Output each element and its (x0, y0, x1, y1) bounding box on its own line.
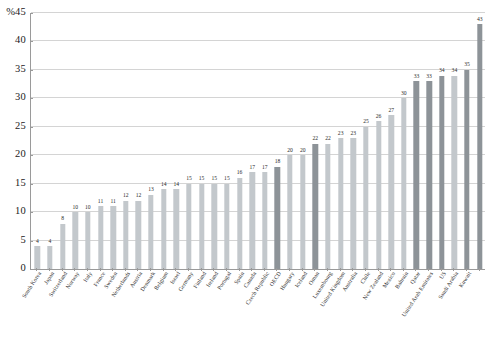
plot-area: 4481010111112121314141515151516171718202… (30, 14, 485, 270)
y-tick-25: 25 (0, 127, 30, 128)
bar[interactable] (287, 155, 292, 269)
bar[interactable] (161, 189, 166, 269)
bar[interactable] (300, 155, 305, 269)
x-axis-label: US (439, 271, 448, 281)
bar-value-label: 4 (49, 239, 52, 245)
y-tick-5: 5 (0, 241, 30, 242)
bar-value-label: 25 (363, 119, 369, 125)
bar-slot: 10 (69, 14, 82, 269)
bar[interactable] (426, 81, 431, 269)
bar-slot: 22 (322, 14, 335, 269)
bar[interactable] (249, 172, 254, 269)
bar[interactable] (376, 121, 381, 269)
bar-slot: 20 (284, 14, 297, 269)
bar[interactable] (148, 195, 153, 269)
bar-value-label: 17 (249, 165, 255, 171)
bar-slot: 10 (82, 14, 95, 269)
bar[interactable] (313, 144, 318, 269)
bar-slot: 20 (296, 14, 309, 269)
y-tick-45: %45 (0, 13, 30, 14)
bar-value-label: 12 (136, 193, 142, 199)
bar-slot: 13 (145, 14, 158, 269)
bar-value-label: 22 (325, 136, 331, 142)
bar[interactable] (60, 224, 65, 270)
bar[interactable] (363, 127, 368, 269)
bar-value-label: 43 (477, 17, 483, 23)
x-axis-label: Kuwait (458, 271, 472, 289)
x-axis-label: Iceland (294, 271, 309, 289)
y-tick-label: 15 (0, 178, 30, 189)
bar-slot: 12 (132, 14, 145, 269)
bar[interactable] (477, 24, 482, 269)
bar[interactable] (224, 184, 229, 269)
bar[interactable] (212, 184, 217, 269)
bar[interactable] (262, 172, 267, 269)
bar-value-label: 35 (464, 62, 470, 68)
bar[interactable] (98, 206, 103, 269)
y-tick-40: 40 (0, 41, 30, 42)
bar[interactable] (351, 138, 356, 269)
bar-value-label: 15 (224, 176, 230, 182)
bar[interactable] (388, 115, 393, 269)
bar[interactable] (110, 206, 115, 269)
bars-layer: 4481010111112121314141515151516171718202… (31, 14, 485, 269)
y-axis: 0510152025303540%45 (0, 14, 30, 270)
bar-value-label: 30 (401, 91, 407, 97)
bar-slot: 15 (221, 14, 234, 269)
x-axis-label: South Korea (22, 271, 43, 300)
bar[interactable] (325, 144, 330, 269)
bar[interactable] (47, 246, 52, 269)
bar-value-label: 20 (300, 148, 306, 154)
bar-value-label: 14 (161, 182, 167, 188)
bar-value-label: 33 (426, 74, 432, 80)
y-tick-label: 25 (0, 121, 30, 132)
bar-value-label: 22 (313, 136, 319, 142)
bar-slot: 16 (233, 14, 246, 269)
bar[interactable] (35, 246, 40, 269)
bar-value-label: 17 (262, 165, 268, 171)
bar[interactable] (186, 184, 191, 269)
bar-value-label: 12 (123, 193, 129, 199)
y-tick-label: 5 (0, 235, 30, 246)
y-tick-30: 30 (0, 98, 30, 99)
bar[interactable] (452, 76, 457, 269)
bar-value-label: 8 (61, 216, 64, 222)
bar-slot: 15 (195, 14, 208, 269)
bar[interactable] (85, 212, 90, 269)
bar-value-label: 14 (174, 182, 180, 188)
bar-slot: 34 (435, 14, 448, 269)
bar[interactable] (174, 189, 179, 269)
bar-value-label: 10 (72, 205, 78, 211)
bar[interactable] (464, 70, 469, 269)
bar[interactable] (73, 212, 78, 269)
y-tick-15: 15 (0, 184, 30, 185)
bar-slot: 4 (31, 14, 44, 269)
bar[interactable] (439, 76, 444, 269)
gridline-45 (31, 12, 485, 13)
bar[interactable] (414, 81, 419, 269)
y-tick-label: 10 (0, 206, 30, 217)
bar[interactable] (123, 201, 128, 269)
bar[interactable] (275, 167, 280, 269)
bar[interactable] (338, 138, 343, 269)
bar[interactable] (199, 184, 204, 269)
bar-slot: 25 (360, 14, 373, 269)
bar-value-label: 15 (199, 176, 205, 182)
y-tick-20: 20 (0, 155, 30, 156)
bar-slot: 18 (271, 14, 284, 269)
bar-slot: 12 (119, 14, 132, 269)
bar-slot: 17 (246, 14, 259, 269)
bar-slot: 14 (170, 14, 183, 269)
bar[interactable] (401, 98, 406, 269)
bar-slot: 26 (372, 14, 385, 269)
y-tick-label: 40 (0, 35, 30, 46)
x-axis-labels: South KoreaJapanSwitzerlandNorwayItalyFr… (30, 271, 485, 337)
bar-slot: 43 (473, 14, 486, 269)
bar-slot: 15 (183, 14, 196, 269)
bar[interactable] (237, 178, 242, 269)
y-tick-label: 0 (0, 263, 30, 274)
y-tick-label: 35 (0, 64, 30, 75)
bar-slot: 14 (157, 14, 170, 269)
bar-value-label: 15 (211, 176, 217, 182)
bar[interactable] (136, 201, 141, 269)
